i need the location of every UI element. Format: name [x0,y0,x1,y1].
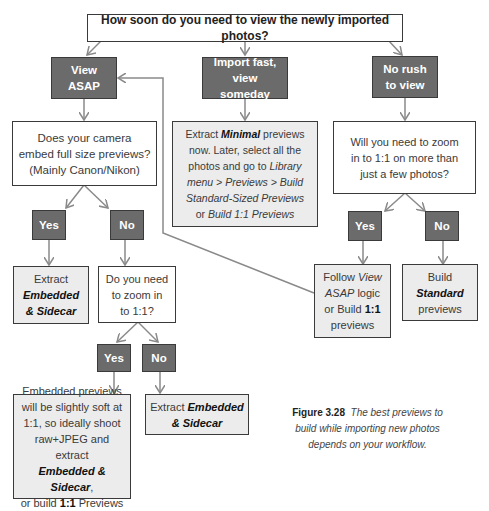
figure-number: Figure 3.28 [292,407,345,418]
asap-yes-text: Yes [39,217,59,233]
norush-yes-line1: Follow View [323,269,382,285]
fast-line2: now. Later, select all the [189,142,301,158]
zoom-yes-l5-tail: , [90,481,93,493]
norush-yes-l1-pre: Follow [323,271,358,283]
branch-view-asap-line1: View [71,62,97,78]
fast-l3-italic: Library [270,160,302,172]
zoom-yes-l6-pre: or build [21,497,60,509]
fast-line6: or Build 1:1 Previews [196,206,295,222]
fast-line3: photos and go to Library [188,158,301,174]
fast-l6-pre: or [196,208,208,220]
zoom-yes-l6-bold: 1:1 [60,497,76,509]
zoom-yes-label: Yes [97,344,131,372]
camera-embed-q-line3: (Mainly Canon/Nikon) [29,162,140,178]
branch-no-rush-line2: to view [386,77,425,93]
norush-yes-line3: or Build 1:1 [324,301,380,317]
asap-yes-label: Yes [32,210,66,240]
zoom-q-line2: to zoom in [112,287,163,303]
norush-yes-text: Yes [355,218,375,234]
zoom-yes-line3: 1:1, so ideally shoot [23,415,120,431]
norush-no-result: Build Standard previews [402,264,478,321]
asap-yes-result: Extract Embedded & Sidecar [13,266,89,324]
zoom-no-text: No [151,350,166,366]
zoom-yes-text: Yes [104,350,124,366]
norush-yes-result: Follow View ASAP logic or Build 1:1 prev… [314,264,391,338]
zoom-many-q-line3: just a few photos? [360,166,449,182]
zoom-many-q-line1: Will you need to zoom [350,134,458,150]
norush-yes-line2: ASAP logic [325,285,380,301]
zoom-no-label: No [142,344,176,372]
norush-yes-l1-italic: View [358,271,382,283]
fast-l6-italic: Build 1:1 Previews [208,208,294,220]
fast-line5: Standard-Sized Previews [186,190,304,206]
norush-no-line3: previews [418,301,461,317]
figure-caption: Figure 3.28 The best previews to build w… [290,405,445,453]
asap-no-label: No [110,210,144,240]
zoom-no-result: Extract Embedded & Sidecar [145,394,249,435]
zoom-yes-line2: will be slightly soft at [22,399,122,415]
zoom-q-line3: to 1:1? [120,303,154,319]
norush-yes-l3-pre: or Build [324,303,364,315]
fast-l1-bold: Minimal [221,128,260,140]
norush-no-line2: Standard [416,285,464,301]
zoom-yes-result: Embedded previews will be slightly soft … [13,394,131,499]
zoom-yes-line1: Embedded previews [22,383,122,399]
branch-view-asap-line2: ASAP [68,78,100,94]
zoom-many-question: Will you need to zoom in to 1:1 on more … [333,121,476,194]
zoom-1to1-question: Do you need to zoom in to 1:1? [98,266,176,323]
branch-import-fast: Import fast, view someday [202,57,288,99]
zoom-no-pre: Extract [150,401,187,413]
zoom-yes-l6-post: Previews [76,497,124,509]
asap-yes-result-line1: Extract [34,271,68,287]
norush-yes-l2-post: logic [354,287,380,299]
branch-no-rush-line1: No rush [383,61,426,77]
branch-import-fast-line1: Import fast, [214,54,277,70]
zoom-no-bold1: Embedded [188,401,244,413]
fast-l1-post: previews [260,128,304,140]
fast-line1: Extract Minimal previews [185,126,304,142]
asap-yes-result-line3: & Sidecar [26,303,77,319]
norush-yes-l2-italic: ASAP [325,287,354,299]
branch-view-asap: View ASAP [51,57,117,99]
branch-import-fast-line2: view someday [207,70,283,102]
zoom-q-line1: Do you need [106,271,168,287]
camera-embed-q-line1: Does your camera [38,130,132,146]
zoom-yes-line6: or build 1:1 Previews [21,495,124,511]
fast-line4: menu > Previews > Build [187,174,303,190]
fast-l3-pre: photos and go to [188,160,269,172]
zoom-yes-line5: Embedded & Sidecar, [18,463,126,495]
root-question-text: How soon do you need to view the newly i… [92,12,398,44]
norush-no-line1: Build [428,269,452,285]
norush-yes-line4: previews [331,317,374,333]
norush-yes-label: Yes [348,211,382,241]
fast-l1-pre: Extract [185,128,221,140]
zoom-yes-line4: raw+JPEG and extract [18,431,126,463]
branch-no-rush: No rush to view [372,56,438,98]
norush-yes-l3-bold: 1:1 [365,303,381,315]
zoom-yes-l5-bold: Embedded & Sidecar [38,465,105,493]
norush-no-text: No [434,218,449,234]
root-question-box: How soon do you need to view the newly i… [87,14,403,42]
camera-embed-q-line2: embed full size previews? [19,146,151,162]
import-fast-result: Extract Minimal previews now. Later, sel… [172,121,318,227]
norush-no-label: No [425,211,459,241]
zoom-many-q-line2: in to 1:1 on more than [351,150,458,166]
asap-no-text: No [119,217,134,233]
zoom-no-line1: Extract Embedded [150,399,244,415]
zoom-no-line2: & Sidecar [172,415,223,431]
camera-embed-question: Does your camera embed full size preview… [12,121,157,186]
asap-yes-result-line2: Embedded [23,287,79,303]
